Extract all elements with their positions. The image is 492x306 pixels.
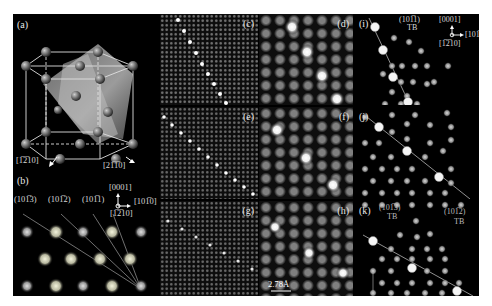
panel-label-b: (b): [17, 175, 29, 186]
hcp-cell-illustration: [13, 14, 159, 164]
plane-label-1012: (101̅2): [444, 207, 465, 216]
panel-b-projection: (b) (101̅3) (101̅2) (101̅1) [0001] [101̅…: [13, 174, 159, 296]
panel-d-haadf-zoom: (d): [259, 14, 353, 105]
panel-j-model: (j): [355, 107, 479, 199]
panel-a-unit-cell: (a): [13, 14, 159, 164]
direction-label-1210: [1̅2̅10]: [16, 155, 39, 165]
plane-label-1013: (101̅3): [379, 203, 400, 212]
twin-boundary-label-1: TB: [387, 212, 397, 221]
panel-label-e: (e): [243, 111, 254, 122]
axis-label-1210: [1̅2̅10]: [439, 39, 460, 48]
axis-label-1210: [1̅2̅10]: [110, 208, 133, 218]
panel-i-model: (i) (101̅1) TB [0001] [101̅0] [1̅2̅10]: [355, 14, 479, 105]
twin-plane-projection: [13, 174, 159, 296]
figure: (a) [1̅2̅10] [21̅1̅0]: [13, 14, 479, 296]
panel-k-model: (k) (101̅3) TB (101̅2) TB: [355, 201, 479, 296]
twin-model-1012: [355, 107, 479, 199]
plane-label-1012: (101̅2): [48, 194, 71, 204]
panel-label-f: (f): [339, 111, 349, 122]
panel-g-haadf: (g): [160, 201, 258, 296]
direction-label-2110: [21̅1̅0]: [103, 160, 125, 170]
panel-e-haadf: (e): [160, 107, 258, 199]
panel-label-h: (h): [337, 205, 349, 216]
panel-c-haadf: (c): [160, 14, 258, 105]
panel-label-i: (i): [359, 18, 368, 29]
panel-f-haadf-zoom: (f): [259, 107, 353, 199]
panel-label-a: (a): [17, 19, 28, 30]
plane-label-1013: (101̅3): [14, 194, 37, 204]
panel-label-k: (k): [359, 205, 371, 216]
axis-label-1010: [101̅0]: [465, 30, 479, 39]
scale-bar-label: 2.78Å: [268, 279, 289, 289]
twin-boundary-label-2: TB: [454, 217, 464, 226]
axis-label-0001: [0001]: [109, 182, 132, 192]
axis-label-0001: [0001]: [439, 15, 460, 24]
panel-label-j: (j): [359, 111, 368, 122]
panel-h-haadf-zoom: (h) 2.78Å: [259, 201, 353, 296]
axis-label-1010: [101̅0]: [134, 196, 157, 206]
panel-label-c: (c): [243, 18, 254, 29]
panel-label-g: (g): [242, 205, 254, 216]
panel-label-d: (d): [337, 18, 349, 29]
plane-label-1011: (101̅1): [82, 194, 104, 204]
twin-boundary-label: TB: [407, 23, 417, 32]
